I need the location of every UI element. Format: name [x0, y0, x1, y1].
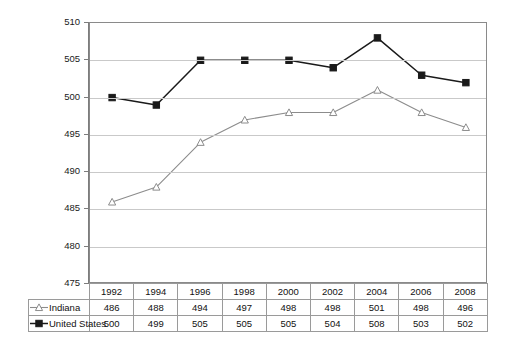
- series-line: [112, 90, 466, 202]
- table-header-row: 199219941996199820002002200420062008: [29, 284, 488, 300]
- legend-row-header: Indiana: [29, 300, 90, 316]
- y-tick-label: 495: [44, 128, 80, 139]
- table-cell: 505: [178, 316, 222, 332]
- table-row: Indiana486488494497498498501498496: [29, 300, 488, 316]
- filled-square-marker-icon: [418, 72, 424, 78]
- filled-square-marker-icon: [36, 320, 42, 326]
- table-column-header: 1998: [222, 284, 266, 300]
- table-cell: 501: [355, 300, 399, 316]
- gridline: [90, 60, 486, 61]
- table-column-header: 2000: [266, 284, 310, 300]
- table-cell: 494: [178, 300, 222, 316]
- table-cell: 488: [134, 300, 178, 316]
- y-tick-label: 505: [44, 53, 80, 64]
- table-head: 199219941996199820002002200420062008: [29, 284, 488, 300]
- open-triangle-marker-icon: [197, 139, 204, 146]
- line-chart-figure: 510505500495490485480475 199219941996199…: [0, 0, 514, 347]
- plot-area: [89, 22, 487, 283]
- legend-row-header: United States: [29, 316, 90, 332]
- open-triangle-marker-icon: [418, 109, 425, 116]
- table-cell: 505: [222, 316, 266, 332]
- table-corner-cell: [29, 284, 90, 300]
- legend-label: Indiana: [49, 302, 80, 313]
- gridline: [90, 98, 486, 99]
- table-column-header: 2006: [399, 284, 443, 300]
- table-body: Indiana486488494497498498501498496United…: [29, 300, 488, 332]
- table-cell: 504: [310, 316, 354, 332]
- table-cell: 505: [266, 316, 310, 332]
- y-tick-label: 480: [44, 240, 80, 251]
- table-column-header: 2008: [443, 284, 487, 300]
- table-cell: 496: [443, 300, 487, 316]
- table-row: United States500499505505505504508503502: [29, 316, 488, 332]
- gridline: [90, 247, 486, 248]
- series-line: [112, 38, 466, 105]
- open-triangle-marker-icon: [30, 302, 48, 313]
- series-layer: [90, 23, 488, 284]
- gridline: [90, 172, 486, 173]
- gridline: [90, 209, 486, 210]
- legend-label: United States: [49, 318, 106, 329]
- table-cell: 498: [399, 300, 443, 316]
- table-column-header: 1996: [178, 284, 222, 300]
- table-cell: 503: [399, 316, 443, 332]
- table-column-header: 1992: [90, 284, 134, 300]
- filled-square-marker-icon: [374, 35, 380, 41]
- table-column-header: 2002: [310, 284, 354, 300]
- table-cell: 498: [310, 300, 354, 316]
- filled-square-marker-icon: [153, 102, 159, 108]
- filled-square-marker-icon: [330, 65, 336, 71]
- legend-entry: Indiana: [30, 302, 89, 313]
- table-column-header: 2004: [355, 284, 399, 300]
- y-tick-label: 490: [44, 165, 80, 176]
- y-tick-label: 485: [44, 202, 80, 213]
- table-column-header: 1994: [134, 284, 178, 300]
- table-cell: 499: [134, 316, 178, 332]
- y-tick-label: 510: [44, 16, 80, 27]
- filled-square-marker-icon: [30, 318, 48, 329]
- table-cell: 508: [355, 316, 399, 332]
- y-tick-label: 500: [44, 91, 80, 102]
- table-cell: 497: [222, 300, 266, 316]
- gridline: [90, 135, 486, 136]
- table-cell: 502: [443, 316, 487, 332]
- open-triangle-marker-icon: [374, 87, 381, 94]
- legend-entry: United States: [30, 318, 89, 329]
- table-cell: 486: [90, 300, 134, 316]
- open-triangle-marker-icon: [109, 198, 116, 205]
- filled-square-marker-icon: [463, 79, 469, 85]
- series-indiana: [109, 87, 470, 206]
- data-table: 199219941996199820002002200420062008 Ind…: [28, 283, 488, 332]
- table-cell: 498: [266, 300, 310, 316]
